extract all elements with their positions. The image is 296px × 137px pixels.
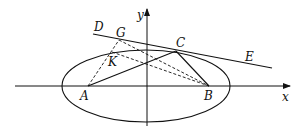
- segment-gb-dashed: [119, 40, 209, 86]
- label-x-axis: x: [282, 90, 289, 104]
- segment-ac: [88, 51, 176, 86]
- label-y-axis: y: [136, 8, 144, 22]
- diagram-canvas: y x D G K C E A B: [0, 0, 296, 137]
- label-point-b: B: [203, 89, 213, 103]
- label-point-c: C: [176, 36, 185, 50]
- label-point-d: D: [93, 20, 104, 34]
- label-point-k: K: [107, 55, 118, 69]
- label-point-g: G: [116, 26, 126, 40]
- label-point-e: E: [244, 50, 254, 64]
- label-point-a: A: [79, 89, 89, 103]
